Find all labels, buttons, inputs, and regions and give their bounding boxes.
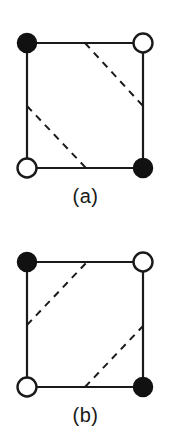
site-b-top-left-filled xyxy=(18,253,37,272)
site-a-bottom-left-open xyxy=(18,159,37,178)
lattice-diagram-b xyxy=(0,219,171,399)
site-a-bottom-right-filled xyxy=(134,159,153,178)
panel-label-b: (b) xyxy=(0,404,171,427)
figure-root: (a) (b) xyxy=(0,0,171,438)
dashed-line-a-upper-diagonal xyxy=(85,43,143,106)
site-b-top-right-open xyxy=(134,253,153,272)
site-b-bottom-right-filled xyxy=(134,378,153,397)
dashed-line-b-lower-diagonal xyxy=(85,326,143,387)
panel-label-a: (a) xyxy=(0,185,171,208)
site-b-bottom-left-open xyxy=(18,378,37,397)
dashed-line-b-upper-diagonal xyxy=(27,262,87,325)
site-a-top-left-filled xyxy=(18,34,37,53)
lattice-diagram-a xyxy=(0,0,171,180)
lattice-panel-b: (b) xyxy=(0,219,171,438)
site-a-top-right-open xyxy=(134,34,153,53)
dashed-line-a-lower-diagonal xyxy=(27,106,86,168)
lattice-panel-a: (a) xyxy=(0,0,171,219)
